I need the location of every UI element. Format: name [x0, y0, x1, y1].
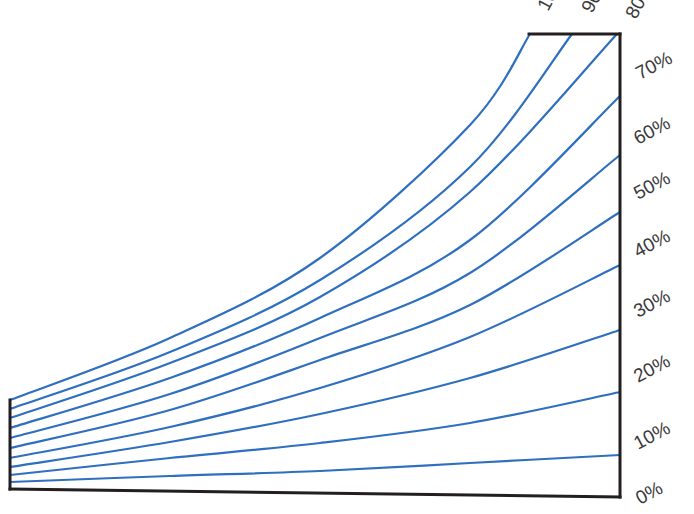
- humidity-curve-90pct: [10, 34, 572, 409]
- relative-humidity-chart: 70%60%50%40%30%20%10%0%100%90%80%: [0, 0, 694, 514]
- humidity-curves: [10, 34, 620, 482]
- right-label-10pct: 10%: [630, 417, 674, 453]
- baseline: [10, 489, 620, 497]
- humidity-curve-20pct: [10, 392, 620, 475]
- top-label-80pct: 80%: [621, 0, 657, 22]
- right-label-0pct: 0%: [632, 477, 666, 508]
- humidity-curve-60pct: [10, 155, 620, 438]
- right-label-50pct: 50%: [630, 167, 674, 203]
- right-label-20pct: 20%: [630, 350, 674, 386]
- humidity-curve-30pct: [10, 330, 620, 467]
- right-label-30pct: 30%: [630, 285, 674, 321]
- top-label-100pct: 100%: [533, 0, 574, 14]
- right-label-70pct: 70%: [632, 47, 676, 83]
- humidity-curve-10pct: [10, 455, 620, 482]
- top-label-90pct: 90%: [577, 0, 613, 16]
- right-label-60pct: 60%: [630, 112, 674, 148]
- right-label-40pct: 40%: [630, 225, 674, 261]
